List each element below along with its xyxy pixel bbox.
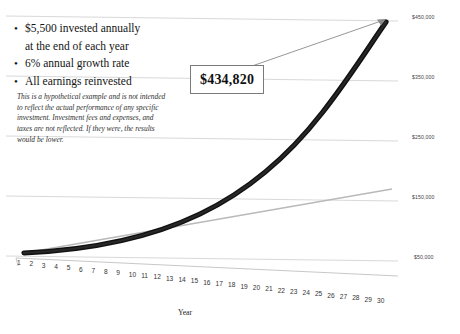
x-axis-label-28: 28 xyxy=(352,294,359,301)
x-axis-label-21: 21 xyxy=(265,285,272,292)
x-axis-label-19: 19 xyxy=(240,283,247,290)
x-axis-label-29: 29 xyxy=(365,296,372,303)
x-axis-label-27: 27 xyxy=(340,293,347,300)
x-axis-label-6: 6 xyxy=(79,266,83,273)
x-axis-label-5: 5 xyxy=(67,264,71,271)
x-axis-label-17: 17 xyxy=(216,280,223,287)
x-axis-label-7: 7 xyxy=(91,267,95,274)
x-axis-label-11: 11 xyxy=(141,272,148,279)
x-axis-labels: 1234567891011121314151617181920212223242… xyxy=(0,0,460,334)
x-axis-label-4: 4 xyxy=(54,263,58,270)
x-axis-label-2: 2 xyxy=(29,260,33,267)
x-axis-label-16: 16 xyxy=(203,279,210,286)
x-axis-label-18: 18 xyxy=(228,281,235,288)
x-axis-label-10: 10 xyxy=(129,271,136,278)
x-axis-label-30: 30 xyxy=(377,297,384,304)
x-axis-label-9: 9 xyxy=(116,269,120,276)
x-axis-label-3: 3 xyxy=(42,262,46,269)
x-axis-label-26: 26 xyxy=(327,292,334,299)
x-axis-label-20: 20 xyxy=(253,284,260,291)
x-axis-label-24: 24 xyxy=(303,289,310,296)
x-axis-label-14: 14 xyxy=(178,276,185,283)
x-axis-label-25: 25 xyxy=(315,290,322,297)
x-axis-label-15: 15 xyxy=(191,277,198,284)
x-axis-label-1: 1 xyxy=(17,259,21,266)
x-axis-label-23: 23 xyxy=(290,288,297,295)
x-axis-title: Year xyxy=(178,308,192,317)
chart-canvas: • $5,500 invested annually at the end of… xyxy=(0,0,460,334)
x-axis-label-8: 8 xyxy=(104,268,108,275)
x-axis-label-13: 13 xyxy=(166,275,173,282)
x-axis-label-12: 12 xyxy=(154,273,161,280)
x-axis-label-22: 22 xyxy=(278,287,285,294)
